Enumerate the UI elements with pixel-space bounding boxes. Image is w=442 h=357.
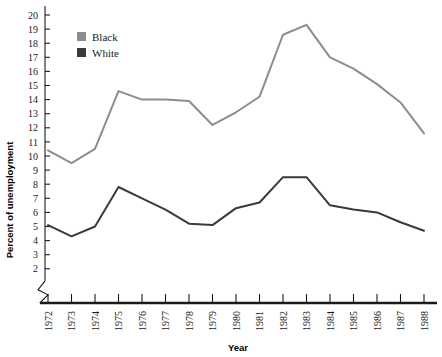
y-axis-tick-label: 16 [28, 66, 38, 77]
x-axis-tick-label: 1983 [301, 311, 312, 331]
chart-canvas: 234567891011121314151617181920 197219731… [0, 0, 442, 357]
y-axis-tick-label: 2 [33, 263, 38, 274]
legend-label-white: White [92, 47, 119, 59]
y-axis-tick-label: 14 [28, 94, 38, 105]
x-axis-tick-label: 1977 [160, 311, 171, 331]
legend-swatch-white [77, 48, 86, 57]
x-axis-tick-label: 1980 [231, 311, 242, 331]
x-axis-tick-label: 1986 [372, 311, 383, 331]
x-axis-tick-label: 1973 [66, 311, 77, 331]
y-axis-tick-label: 5 [33, 221, 38, 232]
legend-label-black: Black [92, 31, 118, 43]
x-axis-tick-label: 1979 [207, 311, 218, 331]
x-axis-tick-label: 1985 [348, 311, 359, 331]
x-axis-tick-label: 1988 [419, 311, 430, 331]
y-axis-tick-label: 4 [33, 235, 38, 246]
legend-swatch-black [77, 32, 86, 41]
y-axis-tick-label: 9 [33, 165, 38, 176]
y-axis-tick-label: 10 [28, 151, 38, 162]
y-axis-tick-label: 13 [28, 108, 38, 119]
unemployment-line-chart: 234567891011121314151617181920 197219731… [0, 0, 442, 357]
y-axis-tick-label: 11 [28, 137, 38, 148]
y-axis-tick-label: 8 [33, 179, 38, 190]
y-axis-title: Percent of unemployment [4, 141, 15, 258]
y-axis-tick-label: 12 [28, 122, 38, 133]
x-axis-tick-label: 1975 [113, 311, 124, 331]
x-axis-tick-label: 1984 [325, 311, 336, 331]
y-axis: 234567891011121314151617181920 [28, 6, 50, 303]
y-axis-tick-label: 3 [33, 249, 38, 260]
y-axis-break-symbol [38, 281, 48, 303]
y-axis-tick-label: 6 [33, 207, 38, 218]
x-axis-tick-label: 1978 [184, 311, 195, 331]
y-axis-tick-label: 7 [33, 193, 38, 204]
series-line-white [48, 177, 424, 236]
chart-legend: BlackWhite [77, 31, 119, 59]
y-axis-tick-label: 17 [28, 52, 38, 63]
y-axis-tick-label: 20 [28, 10, 38, 21]
x-axis-title: Year [228, 342, 248, 353]
x-axis: 1972197319741975197619771978197919801981… [40, 294, 437, 331]
y-axis-tick-label: 18 [28, 38, 38, 49]
x-axis-tick-label: 1974 [90, 311, 101, 331]
y-axis-tick-label: 15 [28, 80, 38, 91]
y-axis-tick-label: 19 [28, 24, 38, 35]
x-axis-tick-label: 1982 [278, 311, 289, 331]
x-axis-tick-label: 1972 [43, 311, 54, 331]
x-axis-tick-label: 1976 [137, 311, 148, 331]
series-line-black [48, 25, 424, 163]
x-axis-tick-label: 1981 [254, 311, 265, 331]
x-axis-tick-label: 1987 [395, 311, 406, 331]
